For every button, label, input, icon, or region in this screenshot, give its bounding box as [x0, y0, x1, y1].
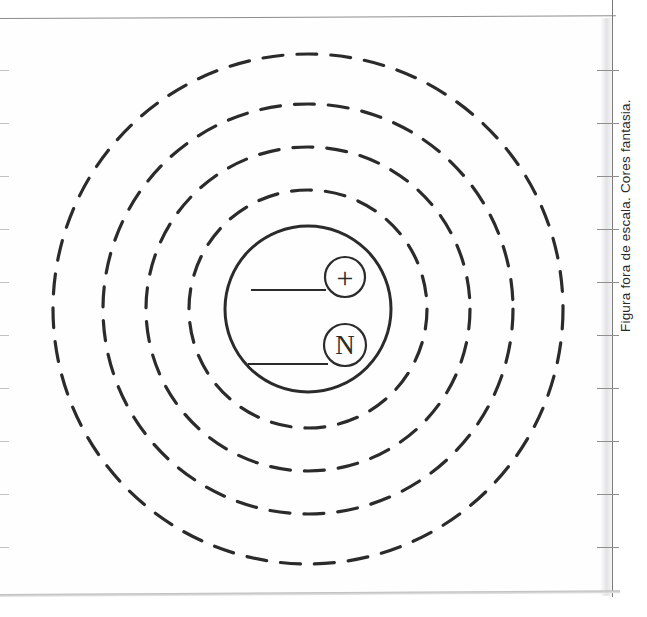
- atom-model-diagram: +N: [0, 0, 647, 617]
- electron-shell-4: [53, 54, 563, 564]
- scanned-page: +N Figura fora de escala. Cores fantasia…: [0, 0, 647, 617]
- proton-symbol: +: [337, 261, 354, 294]
- electron-shell-2: [146, 147, 470, 471]
- nucleus-particles: +N: [248, 257, 366, 366]
- electron-shells: [53, 54, 563, 564]
- page-bottom-margin: [0, 597, 647, 617]
- electron-shell-3: [103, 104, 513, 514]
- neutron-symbol: N: [335, 330, 355, 360]
- nucleus-circle: [225, 226, 391, 392]
- figure-caption: Figura fora de escala. Cores fantasia.: [617, 72, 635, 332]
